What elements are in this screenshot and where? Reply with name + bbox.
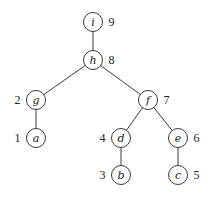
node-c: c5 xyxy=(169,166,200,185)
edge-h-f xyxy=(101,66,141,95)
node-label: b xyxy=(117,169,124,182)
edge-h-g xyxy=(44,65,85,94)
node-g: g2 xyxy=(15,91,46,110)
node-label: i xyxy=(91,16,95,29)
node-d: d4 xyxy=(100,129,131,148)
node-label: a xyxy=(33,132,40,145)
node-a: a1 xyxy=(15,129,46,148)
order-number: 1 xyxy=(15,131,21,145)
node-b: b3 xyxy=(100,166,131,185)
edge-f-e xyxy=(154,107,172,130)
order-number: 2 xyxy=(15,93,21,107)
order-number: 3 xyxy=(100,168,106,182)
node-e: e6 xyxy=(169,129,200,148)
tree-diagram: i9h8g2a1f7d4b3e6c5 xyxy=(0,0,212,197)
nodes-layer: i9h8g2a1f7d4b3e6c5 xyxy=(15,13,200,185)
order-number: 9 xyxy=(109,15,115,29)
node-label: h xyxy=(89,54,96,67)
node-label: g xyxy=(32,94,39,107)
node-f: f7 xyxy=(139,91,170,110)
order-number: 5 xyxy=(194,168,200,182)
order-number: 4 xyxy=(100,131,106,145)
node-h: h8 xyxy=(84,51,115,70)
node-label: e xyxy=(175,132,182,145)
order-number: 8 xyxy=(109,53,115,67)
order-number: 6 xyxy=(194,131,200,145)
node-label: d xyxy=(117,132,124,145)
node-label: c xyxy=(175,169,181,182)
order-number: 7 xyxy=(164,93,170,107)
edge-f-d xyxy=(127,108,143,131)
node-i: i9 xyxy=(84,13,115,32)
